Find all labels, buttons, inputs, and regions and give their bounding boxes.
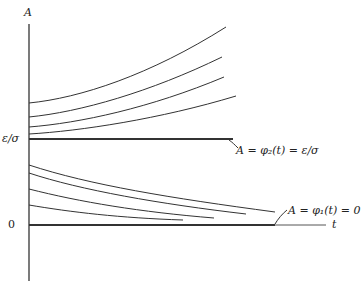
phase-diagram: A ε/σ 0 t A = φ₂(t) = ε/σ A = φ₁(t) = 0	[0, 0, 362, 297]
y-tick-eps-sigma: ε/σ	[2, 133, 19, 144]
trajectory-lower-1	[29, 165, 275, 212]
trajectory-lower-2	[29, 173, 246, 214]
y-axis-label: A	[24, 7, 32, 18]
lower-trajectories	[29, 165, 275, 220]
leader-phi1	[275, 210, 287, 224]
upper-arrowheads	[121, 63, 156, 126]
y-tick-zero: 0	[8, 219, 15, 230]
leader-arrow-icon	[275, 218, 280, 225]
trajectory-upper-3	[29, 77, 224, 127]
equilibrium-label-phi2: A = φ₂(t) = ε/σ	[236, 145, 319, 156]
equilibrium-label-phi1: A = φ₁(t) = 0	[288, 205, 360, 216]
upper-trajectories	[29, 27, 236, 134]
trajectory-lower-3	[29, 189, 214, 218]
x-axis-label: t	[332, 219, 336, 230]
trajectory-upper-4	[29, 96, 236, 134]
arrow-right-icon	[186, 193, 194, 198]
trajectory-upper-1	[29, 27, 226, 103]
